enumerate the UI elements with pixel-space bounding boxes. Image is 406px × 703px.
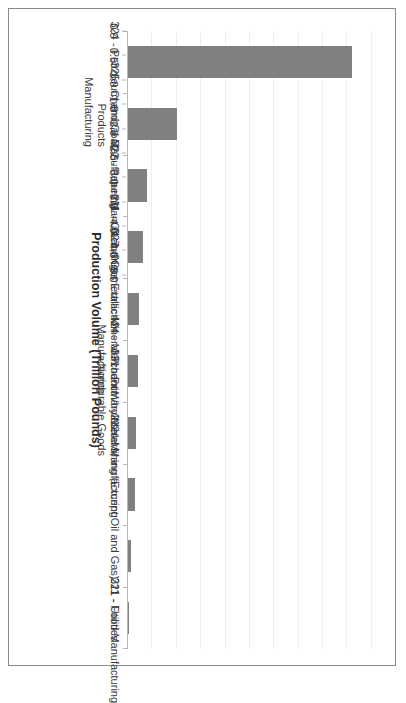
value-tick [122, 201, 126, 202]
value-tick [122, 79, 126, 80]
value-tick [122, 226, 126, 227]
rotated-chart-wrapper: 0.00.51.01.52.02.53.03.54.04.55.0 Produc… [9, 9, 397, 667]
value-tick [122, 31, 126, 32]
value-tick [122, 177, 126, 178]
value-tick [122, 104, 126, 105]
bar-chart: 0.00.51.01.52.02.53.03.54.04.55.0 Produc… [9, 9, 397, 667]
figure-frame: 0.00.51.01.52.02.53.03.54.04.55.0 Produc… [8, 8, 396, 666]
value-tick [122, 250, 126, 251]
category-axis-labels: 324 - Petroleum and Coal ProductsManufac… [11, 31, 121, 649]
category-label: 311 - Food Manufacturing [108, 533, 121, 703]
value-tick [122, 55, 126, 56]
value-tick [122, 152, 126, 153]
value-tick [122, 128, 126, 129]
value-tick [122, 274, 126, 275]
